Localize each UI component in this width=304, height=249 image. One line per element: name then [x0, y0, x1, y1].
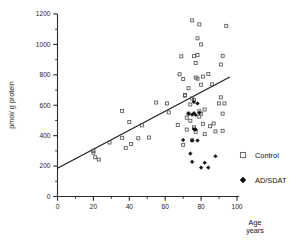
data-point-control [180, 55, 183, 58]
data-point-control [198, 115, 201, 118]
data-point-control [200, 43, 203, 46]
chart-canvas: 020040060080010001200020406080100 Contro… [0, 0, 304, 249]
data-point-control [128, 120, 131, 123]
data-point-control [124, 146, 127, 149]
data-point-control [225, 24, 228, 27]
data-point-control [219, 96, 222, 99]
data-point-control [214, 130, 217, 133]
y-tick-label: 800 [39, 71, 50, 78]
series-points-ad-sdat [181, 100, 217, 169]
data-point-control [94, 156, 97, 159]
x-tick-label: 40 [126, 203, 134, 210]
data-point-ad-sdat [203, 161, 207, 165]
data-point-control [148, 136, 151, 139]
data-point-control [194, 61, 197, 64]
data-point-control [121, 136, 124, 139]
data-point-control [187, 87, 190, 90]
data-point-control [198, 23, 201, 26]
data-point-control [191, 19, 194, 22]
y-tick-label: 600 [39, 102, 50, 109]
data-point-control [185, 116, 188, 119]
data-point-control [218, 102, 221, 105]
data-point-control [185, 128, 188, 131]
data-point-control [210, 83, 213, 86]
data-point-control [221, 112, 224, 115]
data-point-control [182, 143, 185, 146]
x-tick-label: 0 [56, 203, 60, 210]
data-point-control [130, 143, 133, 146]
axis-ticks [53, 14, 237, 201]
data-point-control [200, 83, 203, 86]
data-point-control [201, 122, 204, 125]
axis-tick-labels: 020040060080010001200020406080100 [36, 10, 243, 210]
data-point-control [223, 102, 226, 105]
data-point-control [167, 111, 170, 114]
data-point-control [221, 54, 224, 57]
legend: ControlAD/SDAT [240, 151, 287, 185]
data-point-control [121, 109, 124, 112]
data-point-control [192, 55, 195, 58]
data-point-control [189, 103, 192, 106]
data-point-ad-sdat [181, 138, 185, 142]
data-point-control [196, 54, 199, 57]
data-point-control [221, 129, 224, 132]
y-axis-label: pmol/ g protein [7, 81, 16, 129]
axes [58, 14, 240, 197]
data-point-ad-sdat [199, 166, 203, 170]
data-point-control [212, 122, 215, 125]
axis-lines [58, 14, 240, 197]
y-tick-label: 0 [47, 193, 51, 200]
data-point-control [178, 73, 181, 76]
y-tick-label: 200 [39, 162, 50, 169]
data-point-control [203, 108, 206, 111]
x-axis-label-line2: years [246, 226, 264, 235]
data-point-ad-sdat [196, 139, 200, 143]
data-point-control [203, 133, 206, 136]
data-point-ad-sdat [189, 152, 193, 156]
x-tick-label: 80 [197, 203, 205, 210]
data-point-control [219, 63, 222, 66]
data-point-control [196, 37, 199, 40]
x-tick-label: 100 [231, 203, 242, 210]
data-point-control [165, 102, 168, 105]
data-point-control [137, 137, 140, 140]
data-point-control [207, 73, 210, 76]
x-tick-label: 20 [90, 203, 98, 210]
y-tick-label: 400 [39, 132, 50, 139]
legend-marker-control [240, 152, 245, 157]
data-point-control [201, 75, 204, 78]
data-point-control [182, 77, 185, 80]
legend-marker-ad-sdat [240, 177, 246, 183]
data-point-ad-sdat [190, 160, 194, 164]
data-point-control [209, 125, 212, 128]
data-point-control [189, 119, 192, 122]
data-point-control [176, 124, 179, 127]
data-point-control [97, 158, 100, 161]
legend-label-ad-sdat: AD/SDAT [255, 176, 287, 185]
data-point-control [155, 101, 158, 104]
y-tick-label: 1000 [36, 41, 51, 48]
scatter-chart-figure: 020040060080010001200020406080100 Contro… [0, 0, 304, 249]
legend-label-control: Control [255, 151, 279, 160]
x-tick-label: 60 [162, 203, 170, 210]
y-tick-label: 1200 [36, 10, 51, 17]
data-point-ad-sdat [196, 102, 200, 106]
data-point-ad-sdat [206, 166, 210, 170]
data-point-ad-sdat [214, 154, 218, 158]
